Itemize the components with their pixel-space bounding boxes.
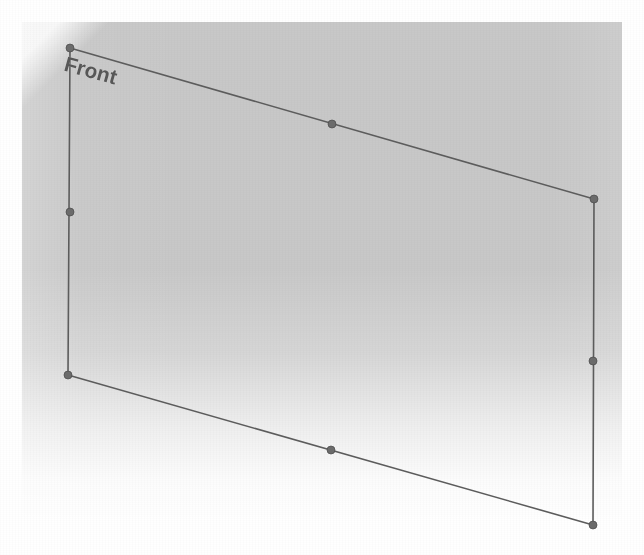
node-handle-group[interactable]	[64, 44, 598, 529]
node-handle-corner-bottom-right[interactable]	[589, 521, 597, 529]
node-handle-midpoint-bottom[interactable]	[327, 446, 335, 454]
model-viewport[interactable]: Front	[0, 0, 644, 555]
node-handle-midpoint-left[interactable]	[66, 208, 74, 216]
node-handle-midpoint-right[interactable]	[589, 357, 597, 365]
node-handle-corner-top-right[interactable]	[590, 195, 598, 203]
node-handle-corner-bottom-left[interactable]	[64, 371, 72, 379]
node-handle-midpoint-top[interactable]	[328, 120, 336, 128]
